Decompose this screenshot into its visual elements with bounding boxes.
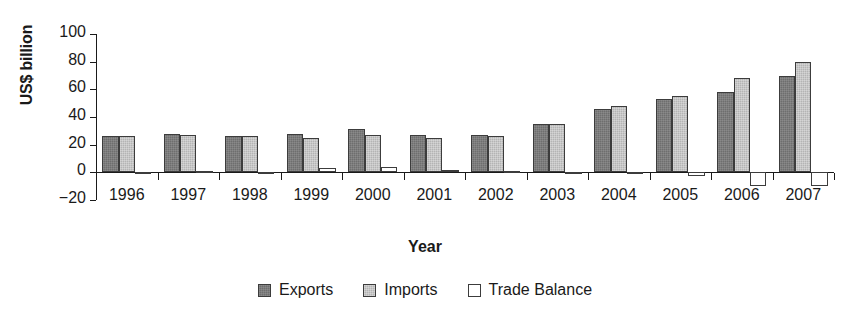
x-tick-mark [834,173,835,180]
x-axis-label-1997: 1997 [158,186,220,204]
bar-exports-2000 [348,129,364,172]
bar-balance-2005 [688,172,704,176]
x-axis-label-2000: 2000 [342,186,404,204]
x-axis-label-2004: 2004 [588,186,650,204]
bar-balance-1998 [258,172,274,174]
x-tick-mark [588,173,589,180]
bar-imports-1999 [303,138,319,173]
x-tick-mark [281,173,282,180]
bar-exports-2002 [471,135,487,172]
bar-imports-2002 [488,136,504,172]
x-axis-label-2007: 2007 [773,186,835,204]
x-tick-mark [219,173,220,180]
bar-balance-1997 [196,171,212,173]
bar-balance-1996 [135,172,151,174]
trade-bar-chart: US$ billion −20020406080100 199619971998… [0,0,850,316]
bar-balance-2000 [381,167,397,173]
x-axis-title: Year [0,238,850,256]
bar-imports-2006 [734,78,750,172]
bar-imports-2007 [795,62,811,173]
x-axis-label-2001: 2001 [404,186,466,204]
bar-imports-2001 [426,138,442,173]
bar-imports-2005 [672,96,688,172]
x-axis-label-1999: 1999 [281,186,343,204]
x-tick-mark [527,173,528,180]
bar-balance-2006 [750,172,766,186]
bar-exports-1999 [287,134,303,173]
y-tick-mark [90,89,96,90]
y-tick-mark [90,62,96,63]
bar-exports-2005 [656,99,672,172]
legend-label: Imports [384,281,437,299]
y-tick-label: 0 [38,161,86,179]
bar-imports-2004 [611,106,627,172]
bar-imports-1998 [242,136,258,172]
bar-imports-2000 [365,135,381,172]
y-tick-label: 80 [38,51,86,69]
bar-balance-2004 [627,172,643,174]
bar-imports-2003 [549,124,565,172]
bar-exports-1997 [164,134,180,173]
x-axis-label-1996: 1996 [96,186,158,204]
bar-exports-2003 [533,124,549,172]
bar-balance-1999 [319,168,335,172]
x-tick-mark [96,173,97,180]
bar-balance-2002 [504,171,520,173]
x-tick-mark [342,173,343,180]
y-axis-title: US$ billion [18,0,36,140]
x-tick-mark [158,173,159,180]
legend-swatch-icon [258,284,271,297]
legend-item-trade-balance[interactable]: Trade Balance [468,281,592,299]
x-tick-mark [404,173,405,180]
bar-exports-2006 [717,92,733,172]
y-tick-mark [90,117,96,118]
bar-balance-2007 [811,172,827,186]
bar-exports-2004 [594,109,610,173]
bar-imports-1996 [119,136,135,172]
bar-exports-1996 [102,136,118,172]
bar-exports-2007 [779,76,795,173]
legend-swatch-icon [468,284,481,297]
y-tick-label: −20 [38,189,86,207]
legend-label: Trade Balance [489,281,592,299]
x-axis-label-1998: 1998 [219,186,281,204]
y-tick-label: 60 [38,78,86,96]
bar-exports-2001 [410,135,426,172]
legend-label: Exports [279,281,333,299]
y-tick-label: 100 [38,23,86,41]
chart-legend: ExportsImportsTrade Balance [0,281,850,299]
x-axis-label-2003: 2003 [527,186,589,204]
bar-exports-1998 [225,136,241,172]
bar-imports-1997 [180,135,196,172]
legend-swatch-icon [363,284,376,297]
x-tick-mark [650,173,651,180]
x-axis-label-2005: 2005 [650,186,712,204]
x-axis-label-2002: 2002 [465,186,527,204]
y-tick-mark [90,34,96,35]
y-tick-label: 40 [38,106,86,124]
y-tick-mark [90,145,96,146]
legend-item-exports[interactable]: Exports [258,281,333,299]
plot-area: −20020406080100 [96,34,834,200]
x-tick-mark [711,173,712,180]
bar-balance-2001 [442,170,458,173]
y-tick-label: 20 [38,134,86,152]
bar-balance-2003 [565,172,581,174]
x-tick-mark [465,173,466,180]
x-axis-label-2006: 2006 [711,186,773,204]
legend-item-imports[interactable]: Imports [363,281,437,299]
x-tick-mark [773,173,774,180]
